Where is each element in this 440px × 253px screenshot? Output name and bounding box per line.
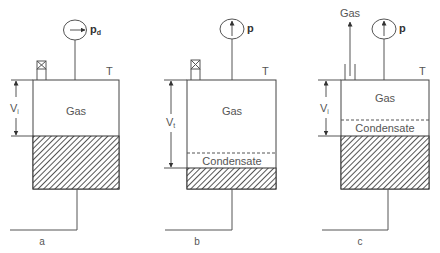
pressure-gauge-icon [64, 20, 87, 80]
volume-label: Vi [10, 102, 19, 115]
panel-a: pd T Gas Vi a [10, 20, 119, 247]
gas-outlet-label: Gas [340, 7, 361, 19]
condensate-layer-label: Condensate [202, 155, 261, 167]
temperature-label: T [419, 65, 426, 77]
volume-label: Vt [166, 116, 175, 129]
drain-pipe [165, 189, 232, 230]
condensate-layer-label: Condensate [355, 122, 414, 134]
gas-layer-label: Gas [66, 105, 87, 117]
panel-b: p T Gas Condensate Vt b [164, 19, 276, 247]
diagram-canvas: pd T Gas Vi a p [0, 0, 440, 253]
hatched-fluid-layer [33, 136, 119, 189]
gauge-label: pd [90, 23, 101, 36]
panel-caption: b [194, 236, 200, 247]
temperature-label: T [262, 65, 269, 77]
panel-c: p Gas T Gas Condensate Vi c [318, 7, 429, 247]
gas-outlet-arrow-icon [345, 22, 355, 80]
gas-layer-label: Gas [375, 92, 396, 104]
gauge-label: p [247, 22, 254, 34]
valve-icon [37, 61, 46, 80]
valve-icon [191, 60, 200, 80]
pressure-gauge-icon [220, 19, 244, 80]
pressure-gauge-icon [372, 19, 396, 80]
hatched-fluid-layer [341, 136, 429, 189]
gauge-label: p [399, 22, 406, 34]
panel-caption: a [39, 236, 45, 247]
hatched-fluid-layer [187, 168, 276, 189]
gas-layer-label: Gas [222, 105, 243, 117]
volume-label: Vi [320, 102, 329, 115]
temperature-label: T [106, 65, 113, 77]
drain-pipe [322, 189, 388, 230]
drain-pipe [10, 189, 77, 230]
panel-caption: c [358, 236, 363, 247]
